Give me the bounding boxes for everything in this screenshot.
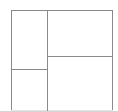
right-horizontal-divider bbox=[47, 56, 113, 57]
outer-bottom-edge bbox=[11, 110, 113, 111]
outer-left-edge bbox=[11, 10, 12, 111]
outer-top-edge bbox=[11, 10, 113, 11]
layout-diagram bbox=[0, 0, 118, 111]
top-left-panel bbox=[12, 11, 47, 69]
top-right-panel bbox=[48, 11, 112, 56]
vertical-divider bbox=[47, 10, 48, 111]
bottom-right-panel bbox=[48, 57, 112, 110]
left-horizontal-divider bbox=[11, 69, 47, 70]
bottom-left-panel bbox=[12, 70, 47, 110]
outer-right-edge bbox=[112, 10, 113, 111]
